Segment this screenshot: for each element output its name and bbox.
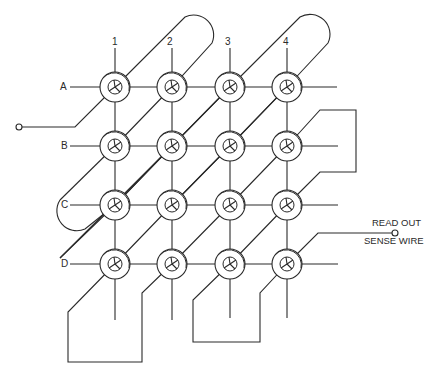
column-wires xyxy=(115,48,287,320)
read-out-label: READ OUT xyxy=(372,218,421,228)
core-C2 xyxy=(157,190,187,220)
sense-wire xyxy=(22,14,392,362)
column-label-1: 1 xyxy=(112,37,118,47)
core-D4 xyxy=(272,249,302,279)
core-A4 xyxy=(272,72,302,102)
sense-wire-label: SENSE WIRE xyxy=(364,236,424,246)
core-A1 xyxy=(100,72,130,102)
core-B4 xyxy=(272,131,302,161)
core-A2 xyxy=(157,72,187,102)
sense-wire-input-terminal xyxy=(16,124,22,130)
core-B2 xyxy=(157,131,187,161)
row-label-D: D xyxy=(61,259,68,269)
row-label-A: A xyxy=(60,82,67,92)
core-B3 xyxy=(215,131,245,161)
sense-wire-loop-right xyxy=(300,110,356,192)
core-memory-diagram xyxy=(0,0,431,371)
core-C4 xyxy=(272,190,302,220)
column-label-3: 3 xyxy=(225,37,231,47)
row-label-C: C xyxy=(61,200,68,210)
core-A3 xyxy=(215,72,245,102)
core-C3 xyxy=(215,190,245,220)
core-D2 xyxy=(157,249,187,279)
core-D3 xyxy=(215,249,245,279)
core-B1 xyxy=(100,131,130,161)
core-C1 xyxy=(100,190,130,220)
core-D1 xyxy=(100,249,130,279)
column-label-4: 4 xyxy=(283,37,289,47)
row-label-B: B xyxy=(61,141,68,151)
column-label-2: 2 xyxy=(167,37,173,47)
